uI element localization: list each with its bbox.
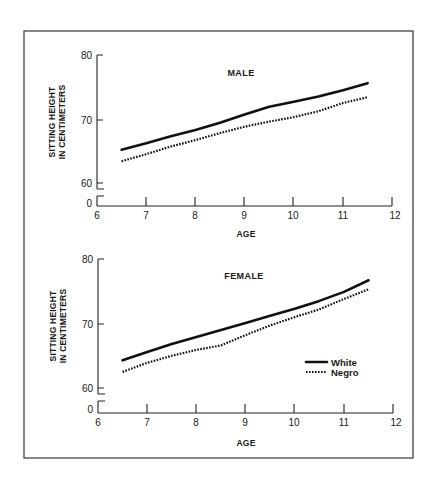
female-y-axis-title-line2: IN CENTIMETERS [58, 289, 68, 364]
female-x-tick-7: 7 [144, 417, 150, 428]
male-chart: 80 70 60 0 6 7 8 9 10 11 12 AGE MALE SIT… [47, 50, 401, 239]
female-x-tick-11: 11 [339, 417, 350, 428]
male-x-tick-8: 8 [192, 210, 198, 221]
female-white-series-line [123, 280, 369, 360]
male-y-tick-60: 60 [81, 178, 93, 189]
male-x-tick-10: 10 [287, 210, 299, 221]
male-x-tick-9: 9 [241, 210, 247, 221]
male-x-tick-7: 7 [143, 210, 149, 221]
female-x-tick-8: 8 [193, 417, 199, 428]
male-axis-break [97, 196, 104, 206]
male-y-axis [97, 55, 104, 189]
legend: White Negro [306, 357, 359, 378]
female-axis-break [98, 401, 105, 413]
male-y-axis-title-line2: IN CENTIMETERS [57, 85, 67, 160]
male-negro-series-line [122, 97, 368, 161]
female-x-axis-title: AGE [236, 438, 255, 448]
male-x-tick-11: 11 [338, 210, 349, 221]
male-x-tick-12: 12 [389, 210, 401, 221]
male-y-axis-title-line1: SITTING HEIGHT [47, 86, 57, 157]
female-x-tick-9: 9 [242, 417, 248, 428]
female-x-tick-12: 12 [390, 417, 402, 428]
male-x-axis-title: AGE [236, 229, 255, 239]
female-y-axis [98, 259, 105, 394]
female-y-tick-80: 80 [82, 254, 94, 265]
male-y-tick-80: 80 [81, 50, 93, 61]
legend-negro-label: Negro [331, 367, 359, 378]
figure: 80 70 60 0 6 7 8 9 10 11 12 AGE MALE SIT… [0, 0, 429, 485]
male-panel-title: MALE [227, 68, 254, 78]
female-y-axis-title: SITTING HEIGHT IN CENTIMETERS [48, 289, 68, 364]
female-panel-title: FEMALE [224, 271, 263, 281]
male-x-tick-6: 6 [94, 210, 100, 221]
male-white-series-line [122, 83, 368, 150]
female-y-tick-60: 60 [82, 383, 94, 394]
female-x-tick-10: 10 [288, 417, 300, 428]
female-y-tick-0: 0 [87, 404, 93, 415]
male-x-axis [97, 197, 392, 206]
female-x-axis [98, 404, 393, 413]
female-x-tick-6: 6 [95, 417, 101, 428]
female-y-tick-70: 70 [82, 319, 94, 330]
female-chart: 80 70 60 0 6 7 8 9 10 11 12 AGE FEMALE S… [48, 254, 402, 448]
male-y-tick-0: 0 [86, 198, 92, 209]
male-y-axis-title: SITTING HEIGHT IN CENTIMETERS [47, 85, 67, 160]
male-y-tick-70: 70 [81, 115, 93, 126]
female-y-axis-title-line1: SITTING HEIGHT [48, 290, 58, 361]
